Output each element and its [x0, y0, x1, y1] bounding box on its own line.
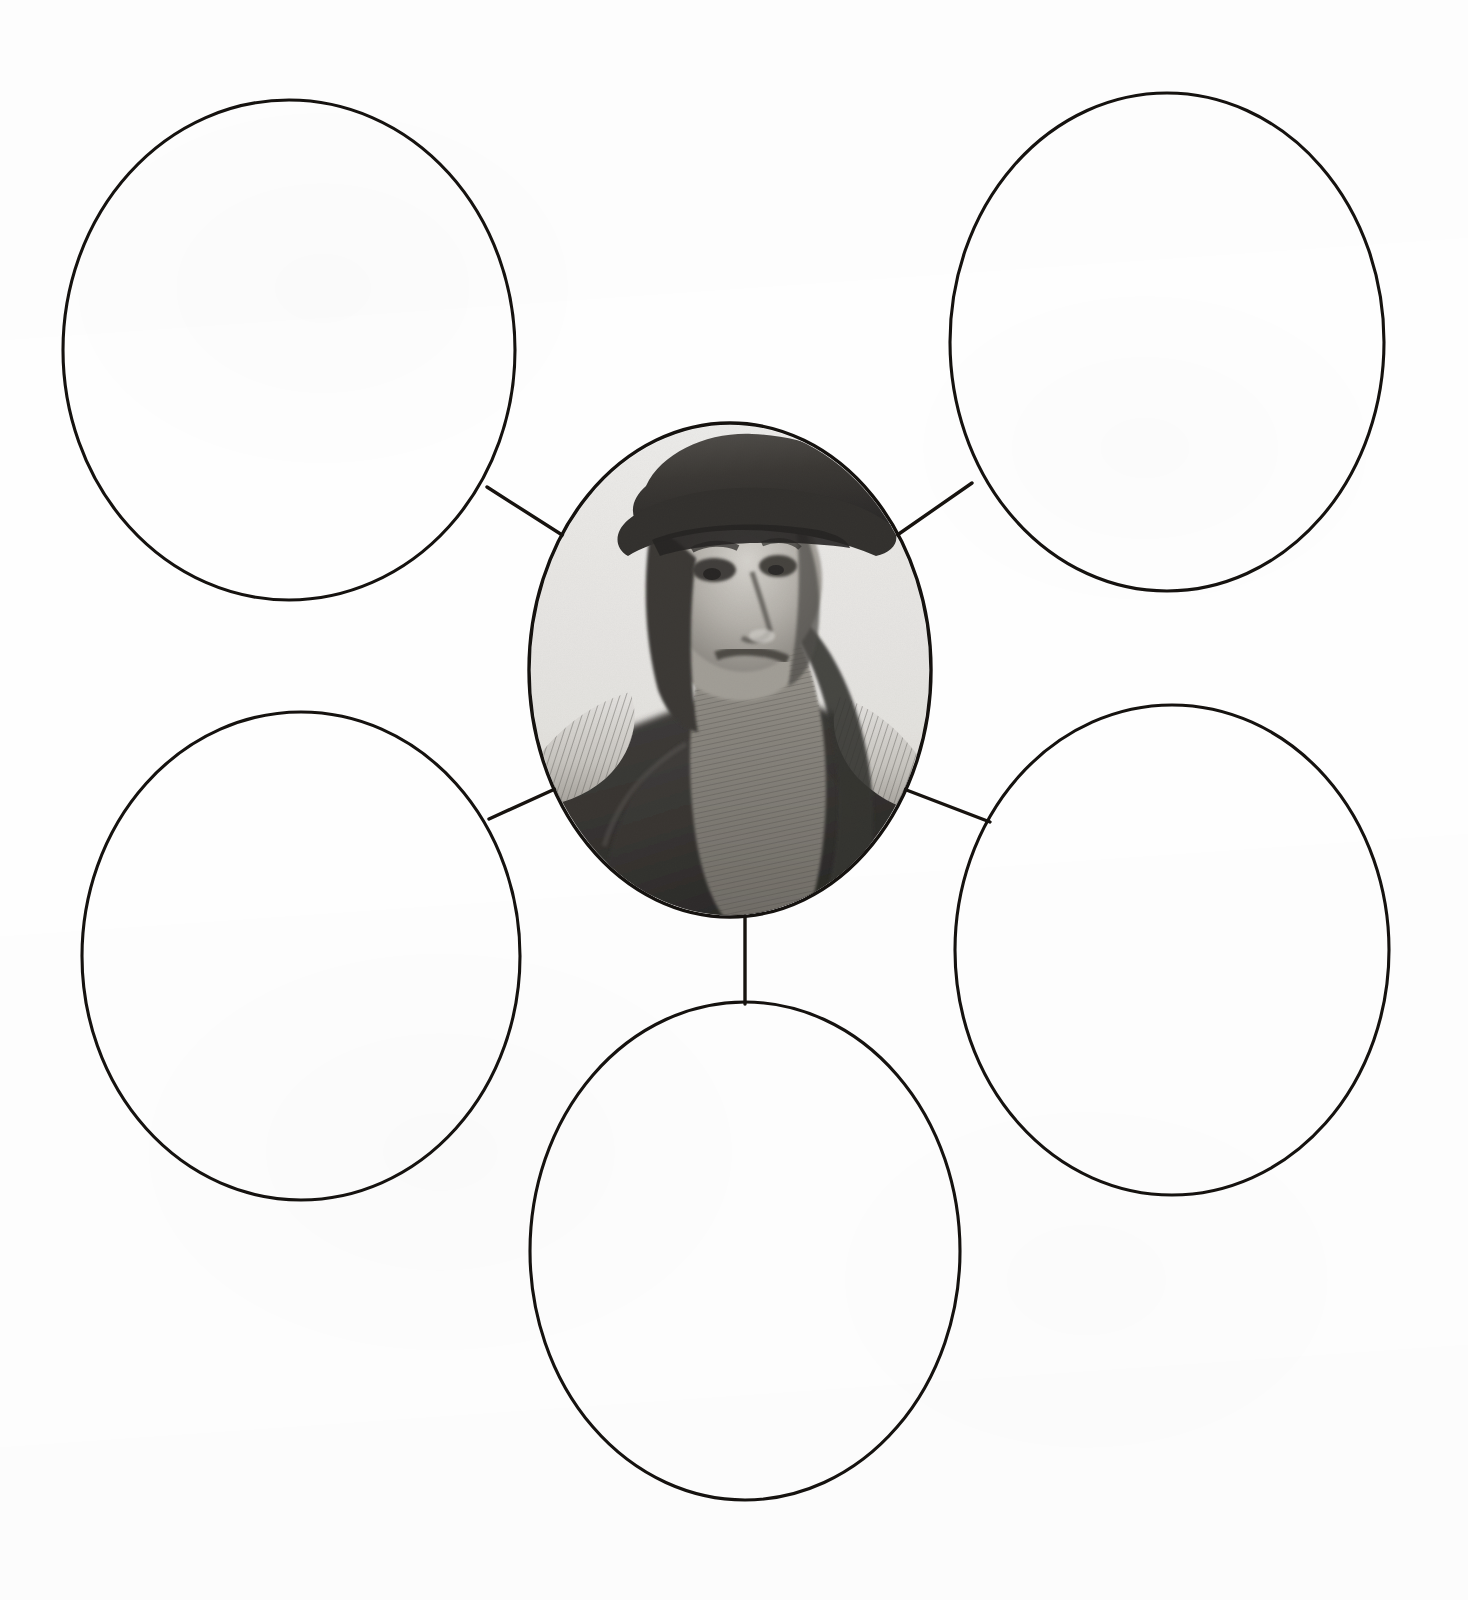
center-portrait-oval[interactable]	[528, 420, 934, 920]
oval-middle-right[interactable]	[955, 705, 1389, 1195]
worksheet-page	[0, 0, 1468, 1600]
connector-center-to-top-right	[893, 483, 972, 538]
oval-bottom-center[interactable]	[530, 1002, 960, 1500]
oval-top-right[interactable]	[950, 93, 1384, 591]
connector-center-to-top-left	[487, 487, 570, 540]
connector-center-to-middle-right	[896, 786, 990, 822]
spider-diagram	[0, 0, 1468, 1600]
oval-middle-left[interactable]	[82, 712, 520, 1200]
oval-top-left[interactable]	[63, 100, 515, 600]
